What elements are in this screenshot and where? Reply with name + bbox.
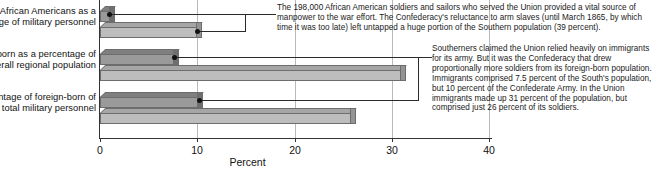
leader-dot-c2-s1 <box>197 98 202 103</box>
leader-line-n0-b <box>197 31 245 32</box>
category-label-foreign-born-military: Percentage of foreign-born of total mili… <box>0 92 96 115</box>
x-axis-title-wrap: Percent <box>0 156 657 168</box>
leader-dot-c0-s1 <box>107 12 112 17</box>
bar-c1-s2 <box>100 70 406 81</box>
x-tick-0 <box>100 138 101 142</box>
category-label-african-americans: African Americans as a percentage of mil… <box>0 6 96 29</box>
bar-c0-s2 <box>100 27 202 38</box>
annotation-foreign-born: Southerners claimed the Union relied hea… <box>432 44 656 113</box>
bar-c1-s1 <box>100 54 179 65</box>
bar-face <box>100 113 351 124</box>
leader-line-n1-out <box>418 57 432 58</box>
leader-line-n1-join <box>418 57 419 101</box>
leader-line-n0-out <box>245 14 276 15</box>
x-tick-20 <box>295 138 296 142</box>
x-tick-30 <box>392 138 393 142</box>
leader-line-n0-a <box>109 14 245 15</box>
leader-line-n1-a <box>174 57 418 58</box>
x-tick-label-40: 40 <box>469 144 509 156</box>
leader-line-n0-join <box>245 14 246 32</box>
x-tick-label-10: 10 <box>177 144 217 156</box>
x-tick-label-0: 0 <box>80 144 120 156</box>
leader-dot-c1-s1 <box>172 55 177 60</box>
y-axis-line <box>99 0 100 139</box>
bar-face <box>100 97 198 108</box>
leader-line-n1-b <box>199 100 418 101</box>
x-tick-label-20: 20 <box>275 144 315 156</box>
annotation-african-americans: The 198,000 African American soldiers an… <box>277 3 655 33</box>
leader-dot-c0-s2 <box>195 29 200 34</box>
bar-chart: African Americans as a percentage of mil… <box>0 0 657 169</box>
x-axis-line <box>100 138 492 139</box>
x-tick-10 <box>197 138 198 142</box>
x-tick-label-30: 30 <box>372 144 412 156</box>
bar-c2-s1 <box>100 97 203 108</box>
x-axis-title: Percent <box>229 156 265 168</box>
bar-face <box>100 54 174 65</box>
category-label-foreign-born-population: Foreign-born as a percentage of overall … <box>0 49 96 72</box>
bar-face <box>100 27 197 38</box>
x-tick-40 <box>489 138 490 142</box>
bar-face <box>100 70 401 81</box>
bar-c2-s2 <box>100 113 356 124</box>
